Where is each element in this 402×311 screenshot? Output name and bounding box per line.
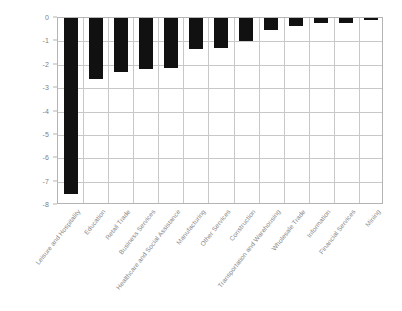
y-tick-label: -5 [43, 130, 49, 137]
x-tick-label: Education [82, 208, 106, 236]
bar-chart-figure: 0-1-2-3-4-5-6-7-8 Leisure and Hospitalit… [0, 0, 402, 311]
bar [239, 18, 253, 41]
y-tick-label: -6 [43, 154, 49, 161]
bar [214, 18, 228, 48]
y-tick-label: -1 [43, 37, 49, 44]
x-tick-label: Mining [364, 208, 382, 228]
y-tick-label: -7 [43, 177, 49, 184]
y-tick-label: -2 [43, 60, 49, 67]
bar [339, 18, 353, 23]
bar [164, 18, 178, 68]
y-tick-label: -8 [43, 201, 49, 208]
x-tick-label: Leisure and Hospitality [34, 208, 81, 266]
bar [139, 18, 153, 69]
bar [289, 18, 303, 26]
bar [314, 18, 328, 23]
bar [264, 18, 278, 30]
y-tick-label: -4 [43, 107, 49, 114]
bar [89, 18, 103, 79]
x-tick-label: Information [306, 208, 332, 239]
bar [364, 18, 378, 20]
bars-container [58, 18, 382, 203]
x-tick-label: Retail Trade [103, 208, 131, 241]
y-axis: 0-1-2-3-4-5-6-7-8 [0, 0, 57, 204]
y-tick-label: 0 [45, 14, 49, 21]
bar [114, 18, 128, 72]
plot-area [57, 17, 383, 204]
bar [64, 18, 78, 194]
y-tick-label: -3 [43, 84, 49, 91]
bar [189, 18, 203, 49]
